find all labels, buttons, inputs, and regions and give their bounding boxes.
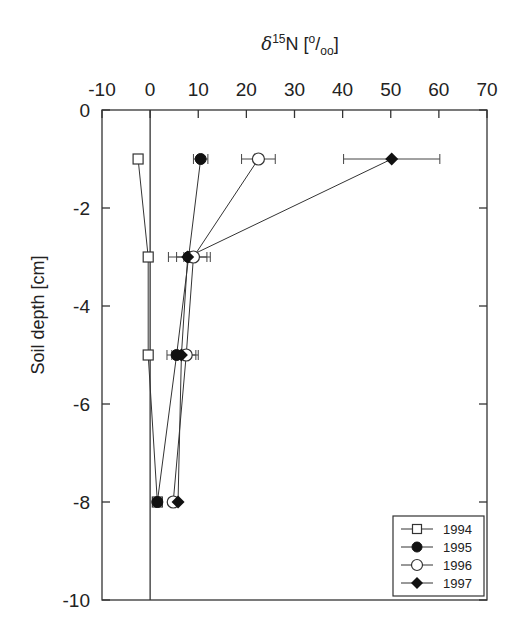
series-line [138,159,157,502]
square-marker [413,525,422,534]
x-tick-label: -10 [88,79,115,100]
x-tick-label: 40 [332,79,353,100]
series-1996 [173,154,275,502]
x-tick-label: 30 [284,79,305,100]
x-axis-title: δ15N [o/oo] [261,32,338,58]
square-marker [143,252,153,262]
legend-label-1994: 1994 [443,522,472,537]
y-tick-label: -6 [73,394,90,415]
chart: δ15N [o/oo] Soil depth [cm] -10010203040… [0,0,520,636]
y-tick-label: -8 [73,492,90,513]
x-tick-label: 10 [188,79,209,100]
y-tick-label: -4 [73,296,90,317]
filled-circle-marker [152,497,163,508]
x-tick-label: 50 [380,79,401,100]
x-tick-label: 0 [145,79,156,100]
data-series [133,153,440,509]
x-tick-label: 60 [428,79,449,100]
legend-label-1996: 1996 [443,558,472,573]
legend: 1994199519961997 [393,516,484,596]
square-marker [143,350,153,360]
markers-1996 [167,153,264,508]
series-1997 [167,154,440,502]
y-tick-label: -10 [63,590,90,611]
x-tick-label: 20 [236,79,257,100]
y-tick-label: -2 [73,198,90,219]
series-1995 [157,154,208,502]
filled-circle-marker [412,542,422,552]
open-circle-marker [252,153,264,165]
legend-label-1997: 1997 [443,576,472,591]
open-circle-marker [412,560,423,571]
x-tick-label: 70 [476,79,497,100]
y-axis-title: Soil depth [cm] [28,255,48,374]
y-tick-label: 0 [79,100,90,121]
diamond-marker [385,153,398,166]
y-axis-title-text: Soil depth [cm] [28,255,48,374]
x-axis-title-text: δ15N [o/oo] [261,32,338,58]
markers-1997 [172,153,399,509]
legend-label-1995: 1995 [443,540,472,555]
square-marker [133,154,143,164]
series-line [173,159,258,502]
filled-circle-marker [195,154,206,165]
series-line [178,159,392,502]
series-1994 [138,159,157,502]
